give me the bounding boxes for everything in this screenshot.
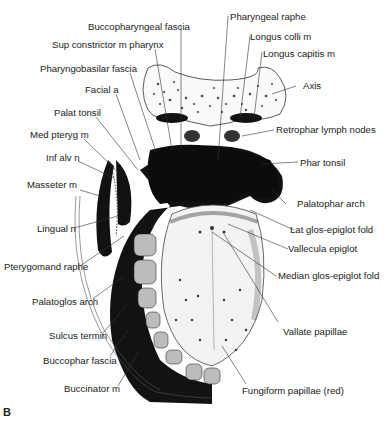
- label-buccinator: Buccinator m: [64, 383, 120, 394]
- label-pharyngeal-raphe: Pharyngeal raphe: [230, 11, 306, 22]
- label-longus-colli: Longus colli m: [250, 31, 311, 42]
- label-med-pteryg: Med pteryg m: [30, 129, 89, 140]
- med-pteryg-muscle: [116, 160, 131, 226]
- label-buccopharyngeal-fascia: Buccopharyngeal fascia: [88, 21, 190, 32]
- label-lat-glos-epiglot-fold: Lat glos-epiglot fold: [290, 224, 373, 235]
- label-palat-tonsil: Palat tonsil: [54, 107, 101, 118]
- label-phar-tonsil: Phar tonsil: [300, 157, 345, 168]
- label-sup-constrictor: Sup constrictor m pharynx: [52, 39, 163, 50]
- label-retrophar-lymph-nodes: Retrophar lymph nodes: [276, 124, 376, 135]
- label-pterygomand-raphe: Pterygomand raphe: [4, 261, 88, 272]
- label-buccophar-fascia: Buccophar fascia: [43, 355, 117, 366]
- masseter-muscle: [96, 160, 114, 257]
- label-masseter: Masseter m: [27, 179, 77, 190]
- label-fungiform-papillae: Fungiform papillae (red): [242, 385, 344, 396]
- label-lingual-n: Lingual n: [37, 223, 76, 234]
- label-vallate-papillae: Vallate papillae: [283, 326, 347, 337]
- label-facial-a: Facial a: [85, 84, 119, 95]
- label-sulcus-termin: Sulcus termin: [49, 330, 107, 341]
- anatomy-figure: Buccopharyngeal fascia Sup constrictor m…: [0, 0, 388, 431]
- label-axis: Axis: [303, 80, 321, 91]
- label-inf-alv-n: Inf alv n: [46, 152, 80, 163]
- retrophar-lymph-node-right: [224, 130, 240, 142]
- label-vallecula-epiglot: Vallecula epiglot: [288, 243, 357, 254]
- panel-letter: B: [3, 406, 11, 418]
- label-palatoglos-arch: Palatoglos arch: [32, 296, 98, 307]
- label-median-glos-epiglot-fold: Median glos-epiglot fold: [278, 270, 379, 281]
- label-palatophar-arch: Palatophar arch: [297, 198, 365, 209]
- label-pharyngobasilar-fascia: Pharyngobasilar fascia: [40, 63, 137, 74]
- retrophar-lymph-node-left: [184, 130, 200, 142]
- axis-vertebra: [143, 65, 286, 126]
- label-longus-capitis: Longus capitis m: [263, 48, 335, 59]
